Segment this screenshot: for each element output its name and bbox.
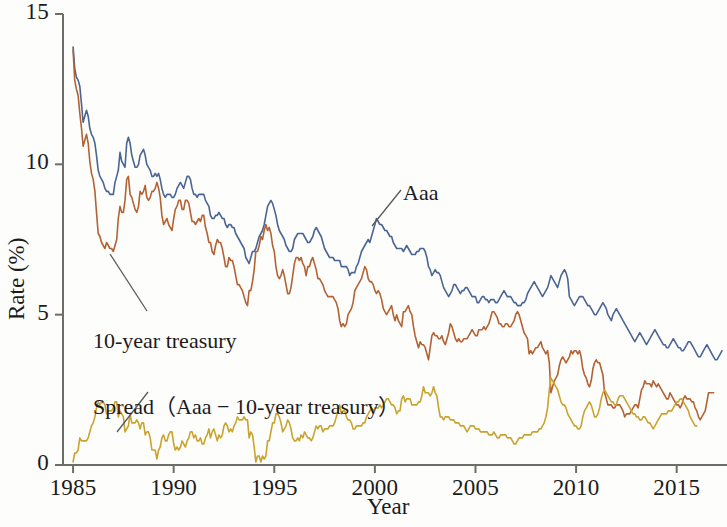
- y-tick-label: 0: [0, 450, 49, 476]
- chart-figure: 051015 1985199019952000200520102015 Aaa1…: [0, 0, 727, 527]
- y-tick-label: 10: [0, 149, 49, 175]
- y-axis-title: Rate (%): [4, 238, 30, 320]
- y-tick-label: 15: [0, 0, 49, 25]
- x-tick-label: 1990: [143, 475, 205, 501]
- series-line-aaa: [73, 47, 722, 360]
- x-tick-label: 2010: [545, 475, 607, 501]
- x-axis-ticks: [73, 465, 677, 473]
- annotation-label-aaa: Aaa: [403, 180, 438, 206]
- x-tick-label: 2015: [646, 475, 708, 501]
- leader-line-aaa: [372, 190, 401, 226]
- chart-plot-area: [0, 0, 727, 527]
- leader-line-ten-year-treasury: [110, 254, 147, 311]
- annotation-label-ten-year-treasury: 10-year treasury: [93, 328, 237, 354]
- y-axis-ticks: [55, 14, 63, 465]
- x-tick-label: 2005: [444, 475, 506, 501]
- series-line-10-year-treasury: [73, 50, 714, 420]
- x-axis-title: Year: [367, 494, 409, 520]
- x-tick-label: 1995: [243, 475, 305, 501]
- annotation-label-spread: Spread（Aaa − 10-year treasury）: [93, 388, 400, 420]
- x-tick-label: 1985: [42, 475, 104, 501]
